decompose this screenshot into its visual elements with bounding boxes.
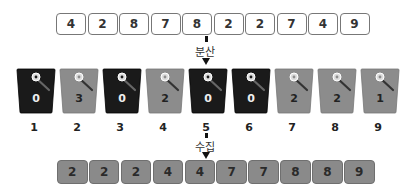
scatter-label: 분산 xyxy=(195,43,215,59)
output-cell: 2 xyxy=(89,160,120,184)
bucket-count: 2 xyxy=(145,92,185,105)
bucket-icon xyxy=(360,68,400,114)
output-cell: 2 xyxy=(57,160,88,184)
bucket: 0 xyxy=(102,68,142,113)
output-cell: 9 xyxy=(344,160,375,184)
bucket-index-label: 6 xyxy=(229,121,269,134)
bucket: 2 xyxy=(145,68,185,113)
bucket: 0 xyxy=(16,68,56,113)
output-cell: 8 xyxy=(312,160,343,184)
bucket: 3 xyxy=(59,68,99,113)
bucket-count: 0 xyxy=(231,92,271,105)
input-cell: 7 xyxy=(277,13,307,35)
output-cell: 2 xyxy=(121,160,152,184)
bucket: 2 xyxy=(317,68,357,113)
bucket: 2 xyxy=(274,68,314,113)
input-cell: 2 xyxy=(245,13,275,35)
output-cell: 8 xyxy=(280,160,311,184)
output-array: 2 2 2 4 4 7 7 8 8 9 xyxy=(57,160,376,184)
input-cell: 7 xyxy=(151,13,181,35)
scatter-arrow-icon xyxy=(202,58,210,65)
bucket: 0 xyxy=(188,68,228,113)
bucket-icon xyxy=(145,68,185,114)
bucket-count: 3 xyxy=(59,92,99,105)
bucket: 1 xyxy=(360,68,400,113)
input-cell: 2 xyxy=(88,13,118,35)
bucket-index-label: 3 xyxy=(100,121,140,134)
bucket-icon xyxy=(317,68,357,114)
output-cell: 4 xyxy=(153,160,184,184)
bucket-count: 1 xyxy=(360,92,400,105)
bucket-count: 0 xyxy=(16,92,56,105)
input-cell: 4 xyxy=(308,13,338,35)
bucket: 0 xyxy=(231,68,271,113)
bucket-index-label: 9 xyxy=(358,121,398,134)
bucket-icon xyxy=(274,68,314,114)
bucket-index-label: 8 xyxy=(315,121,355,134)
input-cell: 9 xyxy=(340,13,370,35)
bucket-count: 2 xyxy=(274,92,314,105)
input-cell: 8 xyxy=(182,13,212,35)
bucket-icon xyxy=(231,68,271,114)
output-cell: 7 xyxy=(248,160,279,184)
bucket-count: 2 xyxy=(317,92,357,105)
input-array: 4 2 8 7 8 2 2 7 4 9 xyxy=(56,13,371,35)
output-cell: 4 xyxy=(185,160,216,184)
bucket-count: 0 xyxy=(102,92,142,105)
output-cell: 7 xyxy=(216,160,247,184)
bucket-index-label: 1 xyxy=(14,121,54,134)
bucket-icon xyxy=(59,68,99,114)
bucket-index-label: 4 xyxy=(143,121,183,134)
gather-arrow-icon xyxy=(202,152,210,159)
bucket-index-label: 2 xyxy=(57,121,97,134)
bucket-count: 0 xyxy=(188,92,228,105)
bucket-icon xyxy=(188,68,228,114)
input-cell: 8 xyxy=(119,13,149,35)
bucket-icon xyxy=(16,68,56,114)
bucket-index-label: 7 xyxy=(272,121,312,134)
bucket-icon xyxy=(102,68,142,114)
scatter-connector xyxy=(205,36,208,42)
input-cell: 2 xyxy=(214,13,244,35)
input-cell: 4 xyxy=(56,13,86,35)
